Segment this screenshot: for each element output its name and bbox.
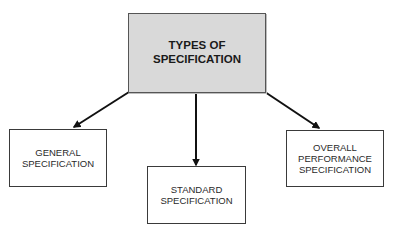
standard-label-line: STANDARD — [160, 184, 232, 195]
arrow-to-general — [74, 92, 129, 127]
overall-label-line: OVERALL — [298, 142, 372, 153]
root-label-line: SPECIFICATION — [153, 53, 241, 67]
specification-types-diagram: TYPES OF SPECIFICATION GENERAL SPECIFICA… — [0, 0, 393, 232]
arrow-to-overall — [265, 92, 319, 128]
child-node-general-specification: GENERAL SPECIFICATION — [9, 129, 107, 187]
general-label-line: GENERAL — [22, 147, 94, 158]
root-label-line: TYPES OF — [153, 39, 241, 53]
overall-node-label: OVERALL PERFORMANCE SPECIFICATION — [298, 142, 372, 176]
overall-label-line: PERFORMANCE — [298, 153, 372, 164]
child-node-standard-specification: STANDARD SPECIFICATION — [147, 166, 246, 224]
overall-label-line: SPECIFICATION — [298, 164, 372, 175]
child-node-overall-performance-specification: OVERALL PERFORMANCE SPECIFICATION — [286, 130, 384, 187]
general-label-line: SPECIFICATION — [22, 158, 94, 169]
root-node-label: TYPES OF SPECIFICATION — [153, 39, 241, 66]
standard-label-line: SPECIFICATION — [160, 195, 232, 206]
general-node-label: GENERAL SPECIFICATION — [22, 147, 94, 169]
root-node-types-of-specification: TYPES OF SPECIFICATION — [128, 13, 266, 93]
standard-node-label: STANDARD SPECIFICATION — [160, 184, 232, 206]
